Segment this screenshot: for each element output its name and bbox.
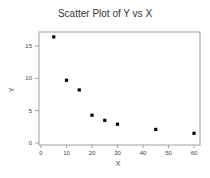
scatter-plot: 0102030405060 051015 X Y [0, 0, 210, 178]
data-point [52, 35, 55, 38]
y-axis: 051015 [25, 43, 39, 146]
data-point [116, 123, 119, 126]
data-points [52, 35, 195, 135]
x-tick-label: 10 [63, 150, 70, 156]
data-point [192, 132, 195, 135]
plot-area [39, 32, 200, 145]
data-point [65, 79, 68, 82]
data-point [103, 119, 106, 122]
data-point [78, 88, 81, 91]
x-tick-label: 50 [165, 150, 172, 156]
y-tick-label: 10 [25, 75, 32, 81]
x-tick-label: 30 [114, 150, 121, 156]
y-tick-label: 5 [29, 108, 33, 114]
x-tick-label: 20 [89, 150, 96, 156]
y-tick-label: 0 [29, 140, 33, 146]
y-axis-label: Y [8, 87, 15, 92]
data-point [90, 114, 93, 117]
x-axis: 0102030405060 [39, 145, 198, 156]
x-axis-label: X [116, 160, 121, 167]
x-tick-label: 60 [191, 150, 198, 156]
x-tick-label: 40 [140, 150, 147, 156]
y-tick-label: 15 [25, 43, 32, 49]
data-point [154, 128, 157, 131]
x-tick-label: 0 [39, 150, 43, 156]
